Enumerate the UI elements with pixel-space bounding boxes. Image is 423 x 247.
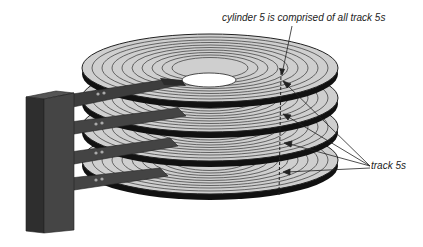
spindle-hole: [182, 73, 236, 87]
cylinder-label: cylinder 5 is comprised of all track 5s: [222, 12, 385, 23]
track-label: track 5s: [371, 160, 406, 171]
actuator-block: [26, 91, 74, 233]
hard-disk-diagram: [0, 0, 423, 247]
